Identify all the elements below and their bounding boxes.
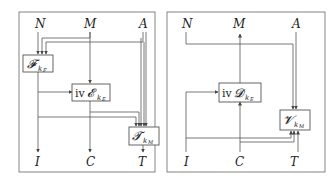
node-M: M <box>83 17 97 31</box>
node-C: C <box>235 155 244 169</box>
node-A: A <box>138 17 148 31</box>
node-I: I <box>183 155 189 169</box>
node-I: I <box>34 155 40 169</box>
box-F: 𝓕 k F <box>23 55 53 73</box>
svg-text:k: k <box>97 94 101 102</box>
box-D: iv 𝓓 k E <box>219 83 261 102</box>
svg-text:k: k <box>245 94 249 102</box>
box-Tm: 𝓣 k M <box>129 127 159 145</box>
right-panel: N M A I C T iv 𝓓 k E 𝓥 k <box>167 12 325 172</box>
svg-text:M: M <box>298 123 305 129</box>
svg-text:iv: iv <box>75 87 86 100</box>
svg-text:E: E <box>101 96 106 102</box>
node-T: T <box>138 155 147 169</box>
svg-text:k: k <box>38 65 42 73</box>
box-E: iv 𝓔 k E <box>72 84 110 102</box>
svg-text:iv: iv <box>222 87 233 100</box>
left-panel: N M A I C T 𝓕 k <box>19 12 159 172</box>
node-A: A <box>291 17 301 31</box>
node-N: N <box>181 17 193 31</box>
node-T: T <box>290 155 299 169</box>
svg-text:k: k <box>294 121 298 129</box>
node-N: N <box>34 17 46 31</box>
box-V: 𝓥 k M <box>280 110 310 130</box>
svg-text:F: F <box>42 67 47 73</box>
svg-text:E: E <box>249 96 254 102</box>
node-M: M <box>232 17 246 31</box>
svg-text:M: M <box>147 139 154 145</box>
diagram-canvas: N M A I C T 𝓕 k <box>0 0 331 183</box>
svg-text:k: k <box>143 137 147 145</box>
node-C: C <box>86 155 95 169</box>
